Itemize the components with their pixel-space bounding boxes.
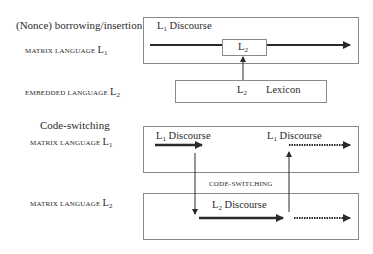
arrows-layer — [0, 0, 373, 254]
